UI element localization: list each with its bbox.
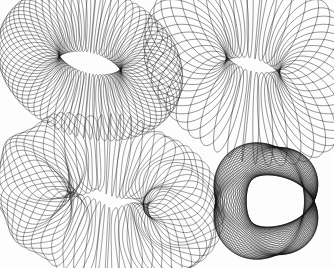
figure-ring-torus-frontal: [178, 8, 328, 122]
wire-curve: [123, 126, 155, 199]
wire-curve: [106, 114, 111, 194]
wire-curve: [129, 134, 176, 204]
wire-curve: [138, 195, 206, 268]
wire-curve: [3, 138, 70, 206]
wire-curve: [96, 75, 109, 141]
wire-curve: [280, 39, 334, 106]
wire-curve: [6, 135, 74, 201]
wire-curve: [118, 204, 142, 268]
wire-curve: [247, 0, 253, 58]
wire-curve: [95, 204, 105, 268]
curve-family: [0, 0, 183, 141]
wire-curve: [143, 163, 216, 226]
wire-curve: [14, 0, 65, 59]
figure-plate: [0, 0, 334, 268]
wire-curve: [0, 150, 71, 220]
wire-curve: [90, 0, 96, 53]
wire-curve: [69, 72, 84, 135]
wire-curve: [8, 49, 63, 99]
wire-curve: [274, 8, 334, 79]
wire-curve: [147, 186, 219, 248]
wire-curve: [279, 32, 334, 98]
figure-square-torus-oblique: [10, 142, 206, 256]
curve-family: [214, 143, 318, 260]
wire-curve: [126, 132, 166, 199]
wire-curve: [41, 193, 87, 266]
wire-curve: [84, 73, 90, 138]
wire-curve: [52, 194, 90, 268]
wire-curve: [279, 56, 334, 130]
wireframe-canvas: [212, 145, 328, 257]
figure-rosette-spiral-frontal: [212, 145, 328, 257]
wireframe-canvas: [10, 142, 206, 256]
wire-curve: [246, 175, 304, 228]
wire-curve: [86, 0, 91, 52]
wire-curve: [84, 201, 101, 268]
wire-curve: [273, 67, 334, 152]
wire-curve: [0, 165, 72, 232]
wire-curve: [105, 207, 110, 268]
wire-curve: [31, 191, 84, 260]
wire-curve: [259, 0, 279, 61]
wireframe-canvas: [178, 8, 328, 122]
